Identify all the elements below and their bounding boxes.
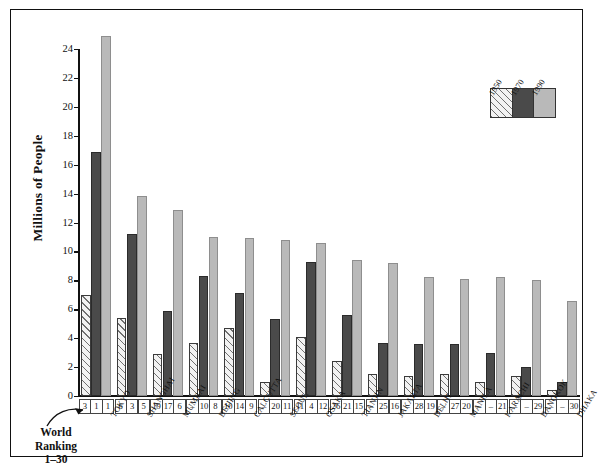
bar-tokyo-1990 <box>101 36 111 396</box>
bar-mumbai-1990 <box>173 210 183 397</box>
ranking-arrow-icon <box>45 406 87 428</box>
bar-jakarta-1990 <box>388 263 398 396</box>
y-tick-label: 6 <box>33 303 73 314</box>
bar-osaka-1950 <box>296 337 306 396</box>
ranking-caption-line: World <box>25 426 87 440</box>
bar-group <box>260 49 290 396</box>
bar-karachi-1990 <box>496 277 506 396</box>
bar-manila-1990 <box>460 279 470 396</box>
y-tick-label: 20 <box>33 101 73 112</box>
bar-tokyo-1970 <box>91 152 101 396</box>
y-tick-mark <box>74 78 80 79</box>
bar-seoul-1990 <box>281 240 291 396</box>
bar-manila-1970 <box>450 344 460 396</box>
bar-osaka-1970 <box>306 262 316 396</box>
bar-beijing-1990 <box>209 237 219 396</box>
y-tick-label: 24 <box>33 43 73 54</box>
bar-tianjin-1990 <box>352 260 362 396</box>
y-axis-tick-labels: 024681012141618202224 <box>29 10 73 467</box>
bar-shanghai-1990 <box>137 196 147 396</box>
y-tick-label: 16 <box>33 159 73 170</box>
y-tick-mark <box>74 309 80 310</box>
y-tick-mark <box>74 107 80 108</box>
bar-group <box>189 49 219 396</box>
bar-group <box>153 49 183 396</box>
bar-group <box>224 49 254 396</box>
bar-calcutta-1970 <box>235 293 245 396</box>
bar-group <box>332 49 362 396</box>
y-tick-label: 8 <box>33 274 73 285</box>
y-tick-label: 2 <box>33 361 73 372</box>
bar-group <box>81 49 111 396</box>
x-axis-category-labels: TOKYOSHANGHAIMUMBAIBEIJINGCALCUTTASEOULO… <box>78 414 580 467</box>
bar-tianjin-1970 <box>342 315 352 396</box>
y-tick-label: 22 <box>33 72 73 83</box>
y-tick-label: 10 <box>33 245 73 256</box>
y-tick-mark <box>74 165 80 166</box>
bar-osaka-1990 <box>316 243 326 396</box>
bar-calcutta-1990 <box>245 238 255 396</box>
bar-bangkok-1990 <box>532 280 542 396</box>
bar-group <box>404 49 434 396</box>
y-tick-label: 0 <box>33 390 73 401</box>
world-ranking-caption: WorldRanking1–30 <box>25 426 87 467</box>
y-tick-mark <box>74 49 80 50</box>
bar-group <box>296 49 326 396</box>
y-tick-mark <box>74 280 80 281</box>
y-tick-mark <box>74 136 80 137</box>
bar-beijing-1970 <box>199 276 209 396</box>
y-tick-mark <box>74 396 80 397</box>
bar-tokyo-1950 <box>81 295 91 396</box>
bar-shanghai-1970 <box>127 234 137 396</box>
legend-swatches <box>490 88 556 118</box>
bar-group <box>117 49 147 396</box>
bar-shanghai-1950 <box>117 318 127 396</box>
bar-calcutta-1950 <box>224 328 234 396</box>
y-tick-mark <box>74 194 80 195</box>
y-tick-mark <box>74 338 80 339</box>
y-tick-label: 18 <box>33 130 73 141</box>
ranking-caption-line: 1–30 <box>25 453 87 467</box>
y-tick-label: 12 <box>33 217 73 228</box>
y-tick-mark <box>74 251 80 252</box>
chart-frame: Millions of People 024681012141618202224… <box>10 9 583 457</box>
bar-group <box>368 49 398 396</box>
y-tick-label: 4 <box>33 332 73 343</box>
y-tick-label: 14 <box>33 188 73 199</box>
ranking-caption-line: Ranking <box>25 440 87 454</box>
y-tick-mark <box>74 367 80 368</box>
y-tick-mark <box>74 223 80 224</box>
bar-delhi-1990 <box>424 277 434 396</box>
bar-group <box>440 49 470 396</box>
